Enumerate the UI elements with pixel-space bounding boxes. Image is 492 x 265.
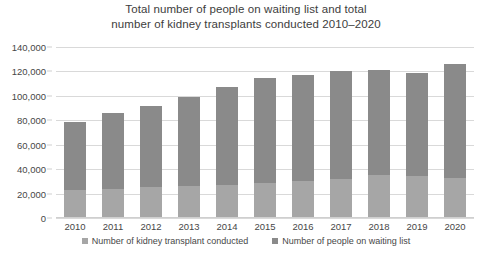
bar-segment-transplants[interactable] <box>368 175 390 218</box>
bar-segment-transplants[interactable] <box>216 185 238 218</box>
y-axis-tick-label: 20,000 <box>17 188 46 199</box>
bar-group[interactable] <box>406 47 428 218</box>
x-axis-tick-label: 2020 <box>444 221 465 232</box>
bar-group[interactable] <box>140 47 162 218</box>
bar-segment-transplants[interactable] <box>140 187 162 218</box>
bar-segment-transplants[interactable] <box>178 186 200 218</box>
bar-segment-waiting-list[interactable] <box>368 70 390 175</box>
bar-group[interactable] <box>254 47 276 218</box>
y-axis-tick-label: 100,000 <box>12 90 46 101</box>
x-axis-tick-label: 2014 <box>216 221 237 232</box>
y-axis-tick <box>47 193 52 194</box>
x-axis-line <box>56 217 474 218</box>
bar-segment-transplants[interactable] <box>254 183 276 218</box>
bar-segment-waiting-list[interactable] <box>292 75 314 181</box>
x-axis-tick-label: 2018 <box>368 221 389 232</box>
x-axis-tick-label: 2013 <box>178 221 199 232</box>
bar-segment-waiting-list[interactable] <box>178 97 200 186</box>
y-axis-tick <box>47 120 52 121</box>
bar-segment-transplants[interactable] <box>292 181 314 218</box>
x-axis-tick-label: 2012 <box>140 221 161 232</box>
chart-title-line-2: number of kidney transplants conducted 2… <box>0 17 492 32</box>
bar-segment-waiting-list[interactable] <box>406 73 428 177</box>
bar-segment-transplants[interactable] <box>64 190 86 218</box>
legend-swatch-icon <box>272 238 278 244</box>
chart-title: Total number of people on waiting list a… <box>0 2 492 32</box>
bar-segment-waiting-list[interactable] <box>64 122 86 190</box>
y-axis-tick-label: 140,000 <box>12 42 46 53</box>
bar-segment-waiting-list[interactable] <box>254 78 276 183</box>
bar-segment-transplants[interactable] <box>102 189 124 218</box>
y-axis-tick <box>47 218 52 219</box>
legend-item[interactable]: Number of people on waiting list <box>272 236 410 246</box>
y-axis-tick <box>47 144 52 145</box>
y-axis-tick-label: 0 <box>41 213 46 224</box>
y-axis-tick <box>47 95 52 96</box>
bar-group[interactable] <box>292 47 314 218</box>
x-axis-tick-label: 2017 <box>330 221 351 232</box>
bar-segment-transplants[interactable] <box>444 178 466 218</box>
x-axis-tick-label: 2010 <box>64 221 85 232</box>
x-axis-tick-label: 2011 <box>103 221 123 232</box>
bar-segment-waiting-list[interactable] <box>444 64 466 178</box>
y-axis-tick-label: 80,000 <box>17 115 46 126</box>
x-axis-labels: 2010201120122013201420152016201720182019… <box>56 219 474 235</box>
bar-segment-waiting-list[interactable] <box>216 87 238 185</box>
y-axis-tick-label: 60,000 <box>17 139 46 150</box>
y-axis-tick-label: 120,000 <box>12 66 46 77</box>
bar-group[interactable] <box>216 47 238 218</box>
y-axis-labels: 020,00040,00060,00080,000100,000120,0001… <box>0 47 52 218</box>
chart-container: Total number of people on waiting list a… <box>0 0 492 265</box>
bar-segment-transplants[interactable] <box>330 179 352 218</box>
x-axis-tick-label: 2016 <box>292 221 313 232</box>
legend-label: Number of people on waiting list <box>282 236 410 246</box>
y-axis-tick <box>47 47 52 48</box>
legend-swatch-icon <box>82 238 88 244</box>
plot-area <box>56 47 474 218</box>
x-axis-tick-label: 2019 <box>406 221 427 232</box>
bar-segment-transplants[interactable] <box>406 176 428 218</box>
bar-group[interactable] <box>444 47 466 218</box>
bar-group[interactable] <box>64 47 86 218</box>
x-axis-tick-label: 2015 <box>254 221 275 232</box>
y-axis-tick-label: 40,000 <box>17 164 46 175</box>
chart-title-line-1: Total number of people on waiting list a… <box>0 2 492 17</box>
legend-item[interactable]: Number of kidney transplant conducted <box>82 236 249 246</box>
bar-group[interactable] <box>368 47 390 218</box>
bar-segment-waiting-list[interactable] <box>140 106 162 188</box>
legend-label: Number of kidney transplant conducted <box>92 236 249 246</box>
bar-segment-waiting-list[interactable] <box>102 113 124 189</box>
bar-group[interactable] <box>178 47 200 218</box>
chart-legend: Number of kidney transplant conductedNum… <box>0 236 492 246</box>
bar-group[interactable] <box>102 47 124 218</box>
bar-group[interactable] <box>330 47 352 218</box>
y-axis-tick <box>47 169 52 170</box>
bar-segment-waiting-list[interactable] <box>330 71 352 178</box>
y-axis-tick <box>47 71 52 72</box>
bar-series <box>56 47 474 218</box>
